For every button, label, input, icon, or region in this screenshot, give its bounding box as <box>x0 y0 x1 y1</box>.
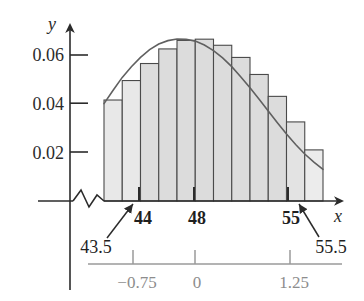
x-axis-name: x <box>333 206 342 226</box>
z-tick-label-0: 0 <box>193 273 202 292</box>
bar <box>104 100 122 201</box>
y-tick-label-004: 0.04 <box>33 94 65 114</box>
bar <box>287 122 305 201</box>
bar <box>122 81 140 201</box>
bar <box>232 57 250 201</box>
bar <box>250 74 268 201</box>
left-edge-label: 43.5 <box>80 237 112 257</box>
z-tick-label-125: 1.25 <box>279 273 309 292</box>
bar <box>195 39 213 201</box>
axis-break-zigzag <box>73 190 104 207</box>
y-tick-label-002: 0.02 <box>33 143 65 163</box>
z-tick-label-neg075: −0.75 <box>117 273 156 292</box>
z-axis <box>88 250 342 264</box>
bar <box>159 49 177 201</box>
histogram-figure: y 0.06 0.04 0.02 x 44 48 55 43.5 55.5 −0… <box>0 0 364 301</box>
bar <box>214 45 232 201</box>
bar <box>177 40 195 201</box>
right-edge-arrow <box>299 204 319 237</box>
y-axis-name: y <box>46 14 56 34</box>
histogram-bars <box>104 39 323 201</box>
bar <box>305 150 323 201</box>
right-edge-label: 55.5 <box>315 237 347 257</box>
chart-svg: y 0.06 0.04 0.02 x 44 48 55 43.5 55.5 −0… <box>0 0 364 301</box>
left-edge-arrow <box>107 204 133 238</box>
bar <box>141 64 159 201</box>
x-tick-label-55: 55 <box>282 208 300 228</box>
y-tick-label-006: 0.06 <box>33 45 65 65</box>
x-tick-label-48: 48 <box>188 208 206 228</box>
bar <box>268 96 286 201</box>
x-tick-label-44: 44 <box>134 208 152 228</box>
